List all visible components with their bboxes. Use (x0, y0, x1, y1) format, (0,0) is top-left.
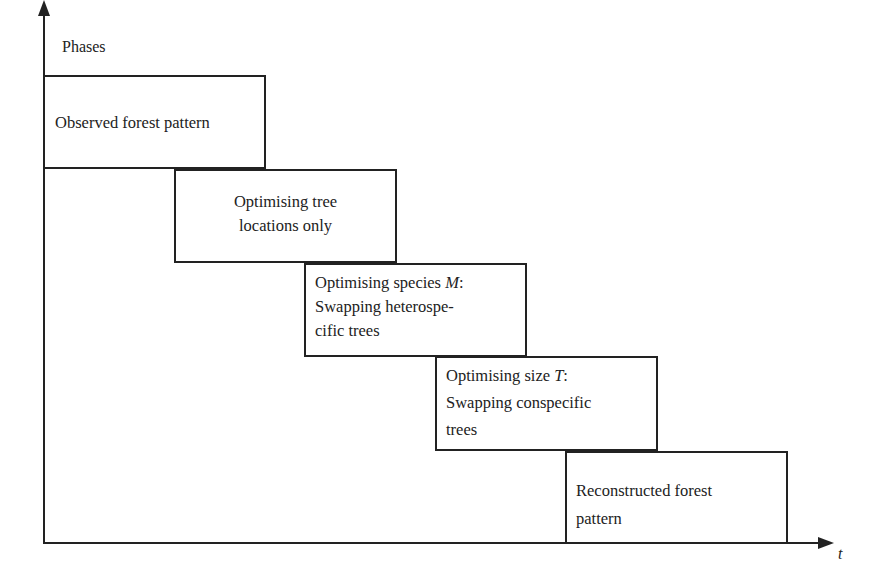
phase-box-locations: Optimising tree locations only (174, 169, 397, 263)
phase-text-heading: Optimising size T: (446, 362, 591, 389)
phase-box-size: Optimising size T: Swapping conspecific … (435, 356, 658, 451)
phase-box-reconstructed: Reconstructed forest pattern (565, 451, 788, 544)
phase-text: pattern (576, 505, 712, 533)
phase-text: Swapping conspecific (446, 389, 591, 416)
phase-text: cific trees (315, 319, 464, 343)
phase-box-species: Optimising species M: Swapping heterospe… (304, 263, 527, 357)
x-axis-arrow-icon (818, 537, 834, 549)
y-axis-label: Phases (62, 38, 106, 56)
phase-text: locations only (176, 214, 395, 238)
phase-box-observed: Observed forest pattern (43, 75, 266, 169)
phase-text: Reconstructed forest (576, 477, 712, 505)
y-axis-arrow-icon (38, 0, 50, 16)
phase-text: Swapping heterospe- (315, 295, 464, 319)
x-axis-label: t (838, 545, 842, 563)
phase-text: trees (446, 416, 591, 443)
phase-text: Optimising tree (176, 190, 395, 214)
phase-text: Observed forest pattern (55, 111, 210, 135)
phase-text-heading: Optimising species M: (315, 271, 464, 295)
